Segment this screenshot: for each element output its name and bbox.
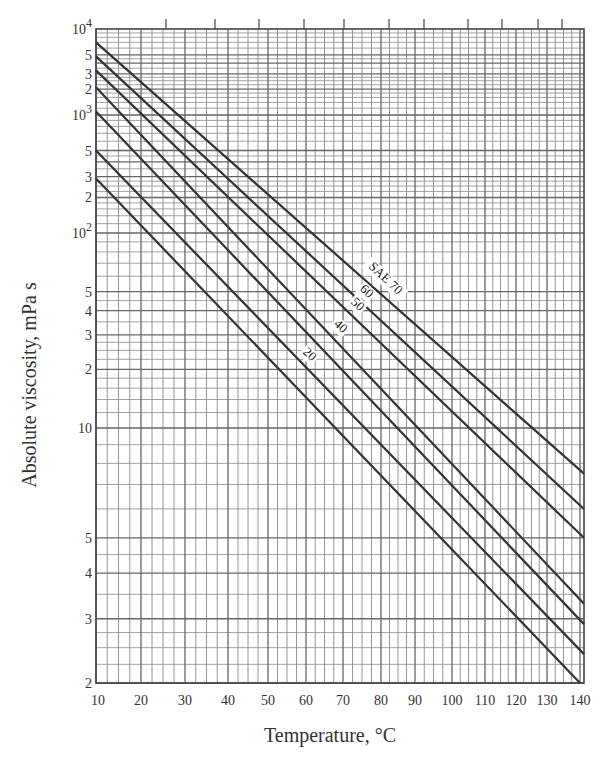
y-tick-label: 2 <box>85 82 92 97</box>
y-tick-label: 4 <box>85 566 92 581</box>
x-tick-label: 90 <box>408 693 422 708</box>
line-labels: SAE 7060504020 <box>298 257 408 366</box>
x-tick-label: 60 <box>299 693 313 708</box>
y-tick-label: 2 <box>85 676 92 691</box>
top-ticks <box>166 19 562 29</box>
x-tick-label: 120 <box>506 693 527 708</box>
x-tick-label: 140 <box>570 693 591 708</box>
x-tick-label: 30 <box>178 693 192 708</box>
y-tick-label: 104 <box>72 16 92 37</box>
x-tick-label: 100 <box>442 693 463 708</box>
y-tick-label: 103 <box>72 102 92 123</box>
x-tick-label: 70 <box>336 693 350 708</box>
x-tick-label: 20 <box>134 693 148 708</box>
series-line-sae-50 <box>96 70 584 537</box>
grid-minor <box>96 29 584 683</box>
x-tick-label: 110 <box>475 693 495 708</box>
y-tick-label: 2 <box>85 362 92 377</box>
series-line-sae-30 <box>96 111 584 624</box>
series-line-sae-60 <box>96 56 584 509</box>
y-tick-label: 4 <box>85 304 92 319</box>
x-tick-label: 50 <box>261 693 275 708</box>
viscosity-temperature-chart: SAE 7060504020 1020304050607080901001101… <box>0 0 602 771</box>
y-tick-labels: 1045321035321025432105432 <box>72 16 92 691</box>
line-label-sae-20: 20 <box>300 344 320 364</box>
y-tick-label: 3 <box>85 170 92 185</box>
x-tick-label: 130 <box>537 693 558 708</box>
grid-major <box>96 29 584 683</box>
series-lines <box>96 42 584 683</box>
y-tick-label: 5 <box>85 144 92 159</box>
y-tick-label: 5 <box>85 531 92 546</box>
y-tick-label: 2 <box>85 190 92 205</box>
y-axis-title: Absolute viscosity, mPa s <box>18 282 41 488</box>
y-tick-label: 102 <box>72 220 92 241</box>
series-line-sae-10 <box>96 178 580 683</box>
y-tick-label: 3 <box>85 612 92 627</box>
x-tick-label: 40 <box>221 693 235 708</box>
y-tick-label: 5 <box>85 285 92 300</box>
x-tick-label: 80 <box>374 693 388 708</box>
series-line-sae-20 <box>96 151 584 655</box>
plot-frame <box>96 29 584 683</box>
y-tick-label: 5 <box>85 48 92 63</box>
y-tick-label: 10 <box>78 421 92 436</box>
x-tick-labels: 102030405060708090100110120130140 <box>91 693 591 708</box>
series-line-sae-40 <box>96 87 584 603</box>
series-line-sae-70 <box>96 42 584 473</box>
x-tick-label: 10 <box>91 693 105 708</box>
x-axis-title: Temperature, °C <box>264 724 396 747</box>
y-tick-label: 3 <box>85 328 92 343</box>
y-tick-label: 3 <box>85 67 92 82</box>
